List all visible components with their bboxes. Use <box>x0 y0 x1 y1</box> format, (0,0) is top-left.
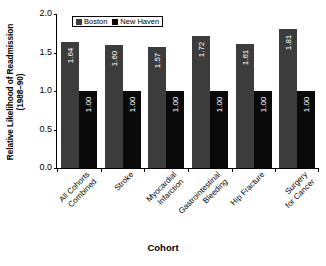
bar-newhaven: 1.00 <box>79 91 97 168</box>
bar-value-label: 1.00 <box>127 97 136 113</box>
bar-value-label: 1.61 <box>240 50 249 66</box>
legend-item: Boston <box>76 17 107 26</box>
bar-newhaven: 1.00 <box>166 91 184 168</box>
y-axis-tick-label: 1.0 <box>39 85 52 95</box>
bar-group: 1.811.00 <box>275 14 319 168</box>
bar-boston: 1.64 <box>61 42 79 168</box>
x-axis-category-label-line: Stroke <box>112 170 135 193</box>
bar-boston: 1.57 <box>148 47 166 168</box>
x-axis-category-labels: All CohortsCombinedStrokeMyocardialInfar… <box>57 170 319 236</box>
bar-value-label: 1.00 <box>171 97 180 113</box>
x-axis-category-label: All CohortsCombined <box>57 170 98 211</box>
bar-group: 1.601.00 <box>101 14 145 168</box>
bar-value-label: 1.72 <box>196 41 205 57</box>
bar-group: 1.611.00 <box>232 14 276 168</box>
bar-value-label: 1.00 <box>258 97 267 113</box>
bar-newhaven: 1.00 <box>297 91 315 168</box>
legend-label: Boston <box>84 17 107 26</box>
bar-boston: 1.60 <box>105 45 123 168</box>
y-axis-tick-label: 0.5 <box>39 124 52 134</box>
bar-value-label: 1.60 <box>109 51 118 67</box>
bar-value-label: 1.00 <box>214 97 223 113</box>
bar-groups: 1.641.001.601.001.571.001.721.001.611.00… <box>57 14 319 168</box>
y-axis-tick-label: 0.0 <box>39 162 52 172</box>
bar-newhaven: 1.00 <box>123 91 141 168</box>
plot-area: 0.00.51.01.52.0 1.641.001.601.001.571.00… <box>57 14 319 168</box>
legend-item: New Haven <box>112 17 159 26</box>
y-axis-title: Relative Likelihood of Readmission (1988… <box>2 14 28 170</box>
x-axis-category-label: Stroke <box>112 170 135 193</box>
bar-boston: 1.61 <box>236 44 254 168</box>
y-axis-title-line1: Relative Likelihood of Readmission <box>5 24 15 160</box>
x-axis-title: Cohort <box>0 242 326 253</box>
legend-swatch-icon <box>112 19 118 25</box>
bar-group: 1.641.00 <box>57 14 101 168</box>
bar-value-label: 1.81 <box>284 34 293 50</box>
readmission-bar-chart: Relative Likelihood of Readmission (1988… <box>0 0 326 266</box>
y-axis-tick-label: 2.0 <box>39 8 52 18</box>
bar-group: 1.571.00 <box>144 14 188 168</box>
x-axis-category-label: GastrointestinalBleeding <box>177 170 230 223</box>
bar-value-label: 1.00 <box>302 97 311 113</box>
bar-boston: 1.72 <box>192 36 210 168</box>
x-axis-category-label-line: Hip Fracture <box>228 170 266 208</box>
legend-label: New Haven <box>120 17 159 26</box>
bar-newhaven: 1.00 <box>210 91 228 168</box>
bar-value-label: 1.64 <box>65 47 74 63</box>
y-axis-title-line2: (1988–90) <box>15 24 25 160</box>
chart-legend: BostonNew Haven <box>72 16 163 27</box>
bar-newhaven: 1.00 <box>254 91 272 168</box>
x-axis-category-label: Hip Fracture <box>228 170 266 208</box>
legend-swatch-icon <box>76 19 82 25</box>
bar-boston: 1.81 <box>279 29 297 168</box>
x-axis-category-label: Surgeryfor Cancer <box>277 170 317 210</box>
bar-value-label: 1.00 <box>83 97 92 113</box>
y-axis-tick-label: 1.5 <box>39 47 52 57</box>
bar-group: 1.721.00 <box>188 14 232 168</box>
bar-value-label: 1.57 <box>153 53 162 69</box>
